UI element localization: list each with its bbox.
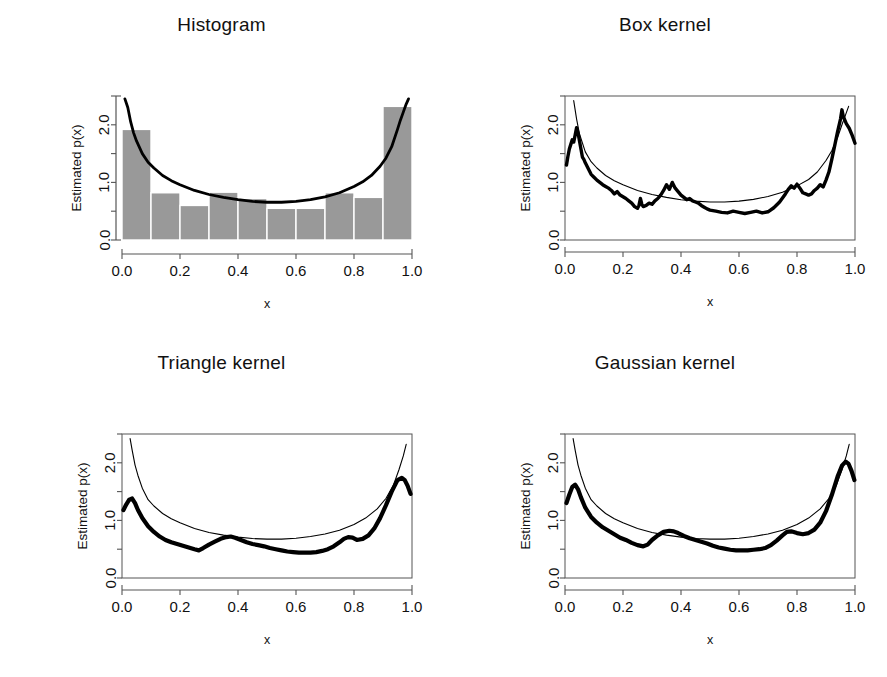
svg-text:0.8: 0.8 xyxy=(787,598,808,615)
svg-text:Estimated p(x): Estimated p(x) xyxy=(518,124,533,211)
svg-text:0.8: 0.8 xyxy=(787,260,808,277)
svg-text:Estimated p(x): Estimated p(x) xyxy=(69,124,84,211)
svg-text:1.0: 1.0 xyxy=(402,598,423,615)
svg-text:1.0: 1.0 xyxy=(102,510,119,531)
histogram-plot: 0.01.02.00.00.20.40.60.81.0xEstimated p(… xyxy=(0,38,443,338)
svg-text:2.0: 2.0 xyxy=(96,114,113,135)
svg-text:0.2: 0.2 xyxy=(170,262,191,279)
svg-text:1.0: 1.0 xyxy=(545,510,562,531)
svg-text:0.4: 0.4 xyxy=(228,262,249,279)
svg-text:0.0: 0.0 xyxy=(545,568,562,589)
svg-text:0.6: 0.6 xyxy=(729,598,750,615)
svg-text:0.6: 0.6 xyxy=(286,262,307,279)
panel-title-box-kernel: Box kernel xyxy=(443,14,887,36)
svg-text:2.0: 2.0 xyxy=(545,114,562,135)
box-kernel-plot: 0.01.02.00.00.20.40.60.81.0xEstimated p(… xyxy=(443,38,887,338)
svg-text:Estimated p(x): Estimated p(x) xyxy=(518,462,533,549)
svg-text:1.0: 1.0 xyxy=(845,598,866,615)
svg-text:0.0: 0.0 xyxy=(102,568,119,589)
svg-text:1.0: 1.0 xyxy=(845,260,866,277)
gaussian-kernel-plot: 0.01.02.00.00.20.40.60.81.0xEstimated p(… xyxy=(443,376,887,677)
svg-text:0.0: 0.0 xyxy=(112,262,133,279)
triangle-kernel-plot: 0.01.02.00.00.20.40.60.81.0xEstimated p(… xyxy=(0,376,443,677)
panel-title-histogram: Histogram xyxy=(0,14,443,36)
panel-box-kernel: Box kernel 0.01.02.00.00.20.40.60.81.0xE… xyxy=(443,0,887,338)
svg-text:0.6: 0.6 xyxy=(286,598,307,615)
svg-text:x: x xyxy=(707,633,714,647)
svg-text:0.2: 0.2 xyxy=(613,598,634,615)
svg-text:0.4: 0.4 xyxy=(671,260,692,277)
panel-histogram: Histogram 0.01.02.00.00.20.40.60.81.0xEs… xyxy=(0,0,443,338)
svg-text:1.0: 1.0 xyxy=(402,262,423,279)
svg-text:0.0: 0.0 xyxy=(96,230,113,251)
svg-text:0.0: 0.0 xyxy=(555,598,576,615)
figure-grid: Histogram 0.01.02.00.00.20.40.60.81.0xEs… xyxy=(0,0,887,677)
svg-text:0.0: 0.0 xyxy=(555,260,576,277)
panel-title-triangle-kernel: Triangle kernel xyxy=(0,352,443,374)
svg-text:0.0: 0.0 xyxy=(545,230,562,251)
svg-text:1.0: 1.0 xyxy=(545,172,562,193)
svg-text:0.2: 0.2 xyxy=(613,260,634,277)
svg-text:0.8: 0.8 xyxy=(344,598,365,615)
panel-title-gaussian-kernel: Gaussian kernel xyxy=(443,352,887,374)
svg-text:x: x xyxy=(264,633,271,647)
svg-text:2.0: 2.0 xyxy=(102,452,119,473)
svg-text:0.4: 0.4 xyxy=(671,598,692,615)
panel-triangle-kernel: Triangle kernel 0.01.02.00.00.20.40.60.8… xyxy=(0,338,443,677)
svg-text:1.0: 1.0 xyxy=(96,172,113,193)
svg-text:Estimated p(x): Estimated p(x) xyxy=(75,462,90,549)
svg-text:0.6: 0.6 xyxy=(729,260,750,277)
svg-text:0.0: 0.0 xyxy=(112,598,133,615)
svg-text:0.4: 0.4 xyxy=(228,598,249,615)
svg-text:x: x xyxy=(707,295,714,309)
svg-text:2.0: 2.0 xyxy=(545,452,562,473)
panel-gaussian-kernel: Gaussian kernel 0.01.02.00.00.20.40.60.8… xyxy=(443,338,887,677)
svg-text:x: x xyxy=(264,297,271,311)
svg-text:0.8: 0.8 xyxy=(344,262,365,279)
svg-text:0.2: 0.2 xyxy=(170,598,191,615)
